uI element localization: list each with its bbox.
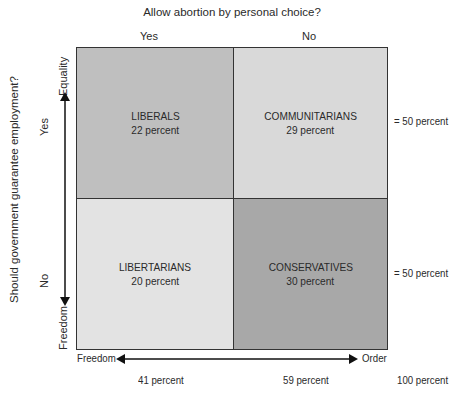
quadrant-percent: 20 percent (131, 274, 179, 288)
column-label-no: No (302, 30, 316, 42)
quadrant-communitarians: COMMUNITARIANS 29 percent (234, 48, 387, 199)
row-label-no: No (38, 274, 50, 288)
quadrant-percent: 30 percent (287, 274, 335, 288)
quadrant-conservatives: CONSERVATIVES 30 percent (234, 199, 387, 349)
quadrant-liberals: LIBERALS 22 percent (77, 48, 234, 199)
row-total-bottom: = 50 percent (394, 267, 448, 279)
quadrant-name: COMMUNITARIANS (264, 109, 357, 123)
quadrant-percent: 22 percent (131, 123, 179, 137)
column-total-right: 59 percent (283, 374, 329, 386)
x-axis-left-label: Freedom (77, 352, 116, 364)
column-total-left: 41 percent (138, 374, 184, 386)
quadrant-libertarians: LIBERTARIANS 20 percent (77, 199, 234, 349)
y-axis-bottom-label: Freedom (57, 306, 69, 350)
row-total-top: = 50 percent (394, 115, 448, 127)
grand-total: 100 percent (397, 374, 448, 386)
quadrant-grid: LIBERALS 22 percent COMMUNITARIANS 29 pe… (76, 47, 388, 350)
quadrant-name: CONSERVATIVES (268, 260, 352, 274)
quadrant-name: LIBERALS (131, 109, 179, 123)
row-label-yes: Yes (38, 118, 50, 136)
column-label-yes: Yes (140, 30, 158, 42)
horizontal-arrow-icon (116, 353, 358, 365)
quadrant-percent: 29 percent (287, 123, 335, 137)
y-axis-top-label: Equality (57, 57, 69, 96)
quadrant-name: LIBERTARIANS (119, 260, 191, 274)
x-axis-right-label: Order (362, 352, 387, 364)
diagram-title: Allow abortion by personal choice? (0, 6, 464, 18)
y-axis-question: Should government guarantee employment? (8, 76, 20, 303)
vertical-arrow-icon (59, 92, 71, 306)
